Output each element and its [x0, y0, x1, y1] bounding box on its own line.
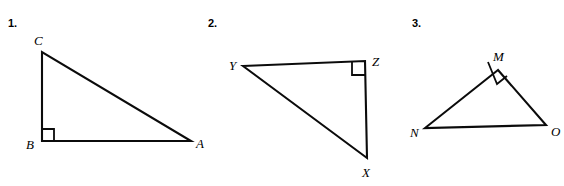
vertex-label-m: M [493, 50, 504, 63]
vertex-label-o: O [551, 125, 560, 138]
right-angle-mark-m-icon [488, 62, 507, 84]
figure-3-right-triangle-mno [0, 0, 564, 186]
triangle-mno-outline [425, 70, 546, 128]
worksheet-canvas: 1. C B A 2. Y Z X 3. M N O [0, 0, 564, 186]
vertex-label-n: N [410, 126, 419, 139]
